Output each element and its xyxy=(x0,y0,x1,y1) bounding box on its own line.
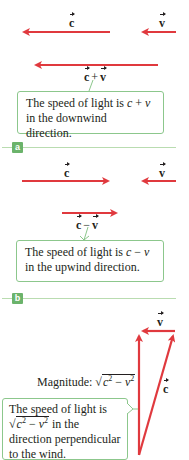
callout-line-4: to the wind. xyxy=(9,447,121,460)
callout-upwind: The speed of light is c − v in the upwin… xyxy=(16,240,164,282)
callout-line-2: √c2 − v2 in the xyxy=(9,417,121,432)
section-divider-b xyxy=(2,298,176,299)
callout-line-1: The speed of light is xyxy=(9,402,121,417)
label-vec-v-b: v xyxy=(159,167,165,179)
label-diff: c−v xyxy=(76,219,98,231)
label-vec-c-a: c xyxy=(69,17,74,29)
panel-tag-a: a xyxy=(12,142,23,153)
label-sum: c+v xyxy=(84,71,106,83)
callout-downwind: The speed of light is c + v in the downw… xyxy=(17,91,164,134)
label-vec-c-b: c xyxy=(64,167,69,179)
section-divider-a xyxy=(2,147,176,148)
callout-line-3: direction perpendicular xyxy=(9,432,121,447)
magnitude-label: Magnitude: √c2 − v2 xyxy=(37,375,135,390)
label-vec-v-a: v xyxy=(159,17,165,29)
label-vec-c-c: c xyxy=(163,383,168,395)
panel-tag-b: b xyxy=(12,293,23,304)
label-vec-v-c: v xyxy=(157,316,163,328)
callout-perpendicular: The speed of light is √c2 − v2 in the di… xyxy=(2,398,128,460)
